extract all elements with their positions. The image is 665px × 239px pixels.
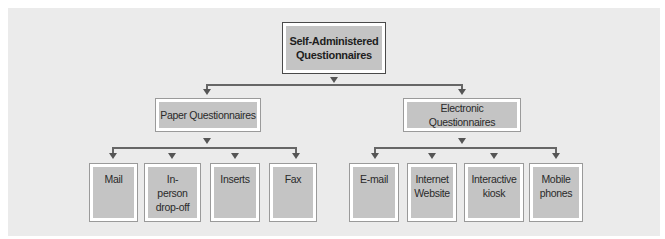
inserts-arrow-icon — [231, 153, 239, 159]
leaf-label: Inserts — [214, 167, 256, 218]
electronic-connector-line — [374, 147, 556, 149]
paper-questionnaires-node: Paper Questionnaires — [155, 98, 261, 132]
leaf-mail: Mail — [89, 163, 138, 222]
leaf-fax: Fax — [269, 163, 317, 222]
leaf-mobile-phones: Mobile phones — [529, 163, 583, 222]
leaf-label: In-person drop-off — [148, 167, 197, 218]
leaf-label: Mail — [93, 167, 134, 218]
email-arrow-icon — [371, 153, 379, 159]
inperson-arrow-icon — [168, 153, 176, 159]
leaf-interactive-kiosk: Interactive kiosk — [464, 163, 524, 222]
leaf-in-person-drop-off: In-person drop-off — [144, 163, 201, 222]
leaf-label: E-mail — [353, 167, 395, 218]
electronic-questionnaires-node: Electronic Questionnaires — [403, 98, 521, 132]
paper-connector-line — [112, 147, 296, 149]
fax-arrow-icon — [292, 153, 300, 159]
leaf-label: Interactive kiosk — [468, 167, 520, 218]
leaf-label: Mobile phones — [533, 167, 579, 218]
electronic-down-arrow-icon — [458, 138, 466, 144]
leaf-e-mail: E-mail — [349, 163, 399, 222]
kiosk-arrow-icon — [490, 153, 498, 159]
leaf-internet-website: Internet Website — [407, 163, 457, 222]
paper-questionnaires-label: Paper Questionnaires — [159, 102, 257, 128]
leaf-label: Internet Website — [411, 167, 453, 218]
root-label: Self-Administered Questionnaires — [286, 26, 382, 70]
electronic-arrow-icon — [458, 89, 466, 95]
leaf-label: Fax — [273, 167, 313, 218]
root-arrow-icon — [330, 77, 338, 83]
paper-down-arrow-icon — [203, 138, 211, 144]
mail-arrow-icon — [109, 153, 117, 159]
website-arrow-icon — [428, 153, 436, 159]
root-node: Self-Administered Questionnaires — [282, 22, 386, 74]
paper-arrow-icon — [203, 89, 211, 95]
electronic-questionnaires-label: Electronic Questionnaires — [407, 102, 517, 128]
leaf-inserts: Inserts — [210, 163, 260, 222]
mobile-arrow-icon — [552, 153, 560, 159]
root-connector-line — [206, 84, 462, 86]
